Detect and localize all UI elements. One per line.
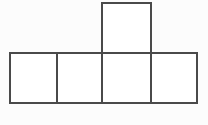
cell-bottom-3 xyxy=(102,53,151,103)
cell-bottom-4 xyxy=(151,53,197,103)
cell-bottom-1 xyxy=(10,53,57,103)
polyomino-figure xyxy=(0,0,208,125)
cell-top xyxy=(102,3,151,53)
cell-bottom-2 xyxy=(57,53,102,103)
